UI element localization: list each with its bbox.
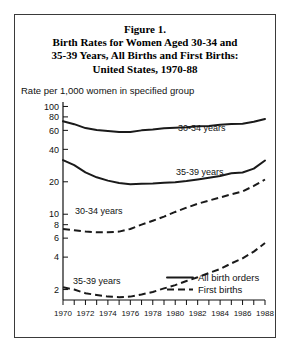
x-tick-label: 1970 [54, 309, 72, 318]
series-inline-label: 30-34 years [75, 206, 123, 216]
y-tick-label: 8 [54, 220, 59, 230]
y-axis-ticks [63, 106, 68, 289]
x-tick-label: 1972 [77, 309, 95, 318]
y-tick-label: 100 [44, 102, 59, 112]
x-tick-label: 1988 [256, 309, 274, 318]
y-tick-label: 6 [54, 233, 59, 243]
y-tick-label: 2 [54, 285, 59, 295]
series-line [63, 160, 265, 184]
y-axis-labels: 10080604020108642 [44, 102, 59, 295]
y-tick-label: 80 [49, 112, 59, 122]
birth-rates-chart: 10080604020108642 1970197219741976197819… [15, 15, 277, 339]
chart-plot-area: 10080604020108642 1970197219741976197819… [15, 15, 277, 339]
series-line [63, 119, 265, 132]
x-tick-label: 1984 [211, 309, 229, 318]
y-tick-label: 60 [49, 126, 59, 136]
y-tick-label: 20 [49, 177, 59, 187]
y-tick-label: 4 [54, 252, 59, 262]
series-inline-label: 30-34 years [178, 123, 226, 133]
y-tick-label: 40 [49, 145, 59, 155]
x-tick-label: 1982 [189, 309, 207, 318]
x-tick-label: 1980 [166, 309, 184, 318]
series-inline-label: 35-39 years [73, 276, 121, 286]
series-inline-labels: 30-34 years35-39 years30-34 years35-39 y… [73, 123, 226, 286]
x-axis-ticks [63, 300, 265, 305]
figure-frame: Figure 1. Birth Rates for Women Aged 30-… [14, 14, 276, 338]
x-tick-label: 1978 [144, 309, 162, 318]
chart-legend: All birth ordersFirst births [167, 272, 259, 295]
legend-label: First births [198, 284, 243, 295]
y-tick-label: 10 [49, 209, 59, 219]
x-tick-label: 1976 [121, 309, 139, 318]
x-tick-label: 1986 [234, 309, 252, 318]
x-axis-labels: 1970197219741976197819801982198419861988 [54, 309, 274, 318]
x-tick-label: 1974 [99, 309, 117, 318]
legend-label: All birth orders [198, 272, 259, 283]
series-inline-label: 35-39 years [176, 167, 224, 177]
